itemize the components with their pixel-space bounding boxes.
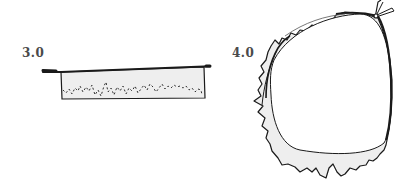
ring-figure [254,0,394,178]
figure-label-stage-4: 4.0 [232,46,254,60]
tray-rim-left-cap [43,71,56,72]
ring-inner-opening [270,14,391,154]
sketch-drawing [0,0,418,183]
tied-end [374,0,394,18]
figure-label-stage-3: 3.0 [22,46,44,60]
tray-figure [43,66,210,99]
